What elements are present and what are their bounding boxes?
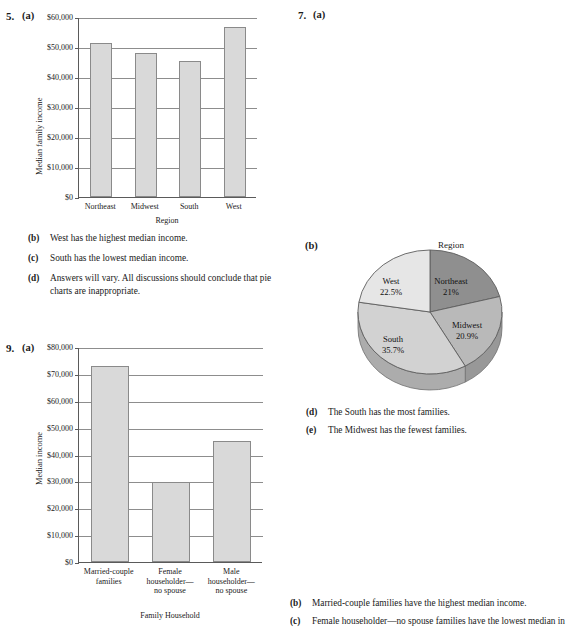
answer-tag: (b) [28,232,47,245]
y-axis-tick [75,348,79,349]
bar [90,43,112,197]
answer-text: Answers will vary. All discussions shoul… [50,272,290,297]
x-axis-tick-label-line: Married-couple [74,567,144,577]
y-axis-tick [75,563,79,564]
y-axis-tick-label: $40,000 [30,74,73,82]
x-axis-tick-label: Malehouseholder—no spouse [196,567,266,596]
pie-slice-value: 22.5% [358,287,424,298]
y-axis-tick-label: $0 [30,559,73,567]
pie-slice-name: Northeast [418,276,484,287]
y-axis-tick-label: $40,000 [30,452,73,460]
answer-text: The South has the most families. [328,406,568,419]
y-axis-tick-label: $70,000 [30,371,73,379]
y-axis-tick-label: $60,000 [30,14,73,22]
answer-tag: (b) [290,597,309,610]
y-axis-tick [75,48,79,49]
problem-7-answer-e: (e) The Midwest has the fewest families. [306,424,568,437]
bar [224,27,246,197]
pie-slice-name: West [358,276,424,287]
bar [152,482,190,562]
bar [213,441,251,562]
gridline [79,18,257,19]
pie-slice-label-west: West22.5% [358,276,424,297]
x-axis-tick-label-line: no spouse [196,586,266,596]
problem-7-part-b-label: (b) [305,240,318,251]
chart-5a-plot-area [78,18,256,198]
bar [135,53,157,197]
pie-slice-value: 35.7% [360,345,426,356]
problem-7-answer-d: (d) The South has the most families. [306,406,568,419]
x-axis-tick-label-line: householder— [135,577,205,587]
y-axis-tick [75,375,79,376]
chart-9a-median-income-by-household: Median income Family Household $0$10,000… [0,330,290,627]
answer-text: The Midwest has the fewest families. [328,424,568,437]
chart-9a-x-axis-title: Family Household [78,611,262,620]
problem-5-answer-c: (c) South has the lowest median income. [28,252,286,265]
bar [179,61,201,198]
pie-slice-name: Midwest [434,320,500,331]
chart-5a-x-axis-title: Region [78,216,256,225]
answer-text: South has the lowest median income. [50,252,286,265]
x-axis-tick-label-line: Male [196,567,266,577]
x-axis-tick-label-line: Female [135,567,205,577]
answer-text: Married-couple families have the highest… [312,597,576,610]
y-axis-tick [75,456,79,457]
y-axis-tick-label: $10,000 [30,164,73,172]
y-axis-tick-label: $60,000 [30,398,73,406]
y-axis-tick [75,168,79,169]
x-axis-tick-label: Midwest [123,202,168,212]
x-axis-tick-label-line: families [74,577,144,587]
pie-slice-name: South [360,334,426,345]
answer-text: West has the highest median income. [50,232,286,245]
x-axis-tick-label-line: householder— [196,577,266,587]
y-axis-tick-label: $80,000 [30,344,73,352]
y-axis-tick-label: $50,000 [30,425,73,433]
answer-tag: (d) [28,272,47,285]
y-axis-tick [75,482,79,483]
x-axis-tick-label-line: no spouse [135,586,205,596]
y-axis-tick [75,18,79,19]
x-axis-tick-label: Married-couplefamilies [74,567,144,586]
chart-7b-region-pie: Region Northeast21% Midwest20.9% South35… [330,240,560,400]
pie-slice-label-midwest: Midwest20.9% [434,320,500,341]
problem-9-answer-c: (c) Female householder—no spouse familie… [290,615,576,627]
chart-7b-title: Region [438,240,464,250]
answer-tag: (c) [28,252,47,265]
pie-slice-value: 20.9% [434,331,500,342]
y-axis-tick-label: $30,000 [30,478,73,486]
chart-9a-plot-area [78,348,262,563]
x-axis-tick-label: Femalehouseholder—no spouse [135,567,205,596]
y-axis-tick [75,138,79,139]
y-axis-tick-label: $50,000 [30,44,73,52]
y-axis-tick-label: $10,000 [30,532,73,540]
answer-tag: (c) [290,615,309,627]
x-axis-tick-label: South [167,202,212,212]
x-axis-tick-label: West [212,202,257,212]
gridline [79,348,263,349]
problem-5-answer-d: (d) Answers will vary. All discussions s… [28,272,290,297]
answer-tag: (e) [306,424,325,437]
y-axis-tick [75,509,79,510]
y-axis-tick [75,429,79,430]
y-axis-tick-label: $20,000 [30,505,73,513]
y-axis-tick [75,108,79,109]
pie-slice-value: 21% [418,287,484,298]
y-axis-tick [75,78,79,79]
y-axis-tick [75,198,79,199]
y-axis-tick [75,402,79,403]
answer-key-page: 5. (a) Median family income Region $0$10… [0,0,576,627]
answer-text: Female householder—no spouse families ha… [312,615,576,627]
y-axis-tick [75,536,79,537]
chart-7a-families-by-region: Families (in thousands) 010,00020,00030,… [290,0,576,228]
y-axis-tick-label: $0 [30,194,73,202]
pie-slice-label-south: South35.7% [360,334,426,355]
answer-tag: (d) [306,406,325,419]
y-axis-tick-label: $30,000 [30,104,73,112]
bar [91,366,129,562]
y-axis-tick-label: $20,000 [30,134,73,142]
problem-5-answer-b: (b) West has the highest median income. [28,232,286,245]
problem-9-answer-b: (b) Married-couple families have the hig… [290,597,576,610]
chart-5a-median-family-income-by-region: Median family income Region $0$10,000$20… [0,0,290,225]
pie-slice-label-northeast: Northeast21% [418,276,484,297]
x-axis-tick-label: Northeast [78,202,123,212]
